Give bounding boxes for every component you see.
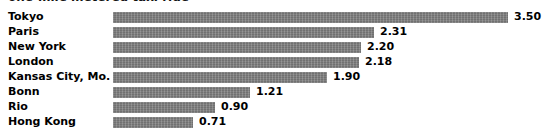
bar-fill (113, 57, 359, 68)
bar-row: Paris2.31 (0, 25, 547, 40)
chart-title-clip: one-mile metered taxi ride (0, 0, 547, 4)
bar-category-label: New York (8, 40, 66, 55)
bar-category-label: Bonn (8, 85, 40, 100)
bar-row: London2.18 (0, 55, 547, 70)
bar-row: Kansas City, Mo.1.90 (0, 70, 547, 85)
chart-title: one-mile metered taxi ride (8, 0, 189, 4)
bar-rows-container: Tokyo3.50Paris2.31New York2.20London2.18… (0, 10, 547, 132)
bar-track: 1.90 (113, 70, 547, 85)
bar-value-label: 1.21 (256, 85, 283, 100)
bar-value-label: 2.20 (367, 40, 394, 55)
bar-fill (113, 87, 250, 98)
bar-track: 2.20 (113, 40, 547, 55)
bar-chart-figure: one-mile metered taxi ride Tokyo3.50Pari… (0, 0, 547, 135)
bar-row: Hong Kong0.71 (0, 115, 547, 130)
bar-track: 3.50 (113, 10, 547, 25)
bar-track: 2.31 (113, 25, 547, 40)
bar-value-label: 1.90 (333, 70, 360, 85)
bar-track: 0.71 (113, 115, 547, 130)
bar-category-label: Paris (8, 25, 39, 40)
bar-fill (113, 42, 361, 53)
bar-fill (113, 102, 215, 113)
bar-category-label: Kansas City, Mo. (8, 70, 110, 85)
bar-track: 1.21 (113, 85, 547, 100)
bar-value-label: 0.71 (199, 115, 226, 130)
bar-fill (113, 72, 327, 83)
bar-category-label: London (8, 55, 54, 70)
bar-row: Tokyo3.50 (0, 10, 547, 25)
bar-value-label: 2.18 (365, 55, 392, 70)
bar-value-label: 2.31 (380, 25, 407, 40)
bar-track: 0.90 (113, 100, 547, 115)
bar-category-label: Rio (8, 100, 28, 115)
bar-fill (113, 27, 374, 38)
bar-row: Rio0.90 (0, 100, 547, 115)
bar-value-label: 0.90 (221, 100, 248, 115)
bar-row: New York2.20 (0, 40, 547, 55)
bar-category-label: Hong Kong (8, 115, 76, 130)
bar-fill (113, 12, 508, 23)
bar-track: 2.18 (113, 55, 547, 70)
bar-value-label: 3.50 (514, 10, 541, 25)
bar-row: Bonn1.21 (0, 85, 547, 100)
bar-fill (113, 117, 193, 128)
bar-category-label: Tokyo (8, 10, 44, 25)
